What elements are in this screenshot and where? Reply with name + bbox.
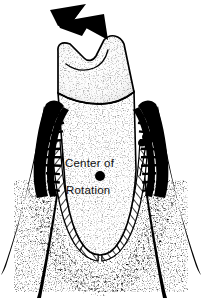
center-of-rotation-label-line2: Rotation	[66, 184, 110, 196]
center-of-rotation-marker-layer	[0, 0, 202, 298]
center-of-rotation-dot	[95, 171, 105, 181]
dental-center-of-rotation-figure: Center of Rotation	[0, 0, 202, 298]
center-of-rotation-label-line1: Center of	[65, 157, 114, 169]
